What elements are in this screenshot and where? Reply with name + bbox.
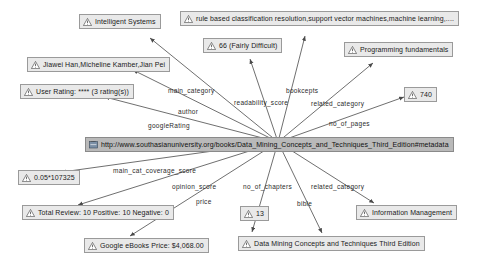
- node-label: Google eBooks Price: $4,068.00: [100, 241, 204, 250]
- edge-label-bible: bible: [297, 200, 312, 207]
- warning-icon: [244, 210, 253, 218]
- node-label: 66 (Fairly Difficult): [219, 41, 277, 50]
- edge-label-related-category-top: related_category: [311, 100, 364, 107]
- warning-icon: [22, 174, 31, 182]
- edge-label-bookcepts: bookcepts: [286, 87, 318, 94]
- edge-label-opinion-score: opinion_score: [172, 183, 216, 190]
- node-label: 0.05*107325: [34, 173, 75, 182]
- node-coverage-score[interactable]: 0.05*107325: [18, 170, 80, 185]
- node-user-rating[interactable]: User Rating: **** (3 rating(s)): [20, 84, 134, 99]
- graph-canvas: Intelligent Systems rule based classific…: [0, 0, 491, 268]
- svg-text:URL: URL: [91, 140, 97, 143]
- node-authors[interactable]: Jiawei Han,Micheline Kamber,Jian Pei: [27, 57, 170, 72]
- warning-icon: [31, 61, 40, 69]
- edge-author: [133, 70, 278, 142]
- node-subject-url[interactable]: URL http://www.southasianuniversity.org/…: [85, 137, 454, 152]
- node-label: Programming fundamentals: [360, 45, 448, 54]
- warning-icon: [26, 209, 35, 217]
- node-label: 740: [420, 90, 432, 99]
- node-label: Intelligent Systems: [95, 17, 156, 26]
- edge-label-price: price: [196, 198, 212, 205]
- node-no-of-pages[interactable]: 740: [404, 87, 437, 102]
- node-label: Total Review: 10 Positive: 10 Negative: …: [38, 208, 169, 217]
- edge-label-related-category-bottom: related_category: [311, 183, 364, 190]
- node-label: Jiawei Han,Micheline Kamber,Jian Pei: [43, 60, 165, 69]
- node-no-of-chapters[interactable]: 13: [240, 206, 269, 221]
- node-label: 13: [256, 209, 264, 218]
- warning-icon: [88, 242, 97, 250]
- node-label: rule based classification resolution,sup…: [196, 14, 454, 23]
- warning-icon: [184, 15, 193, 23]
- warning-icon: [83, 18, 92, 26]
- node-readability-score[interactable]: 66 (Fairly Difficult): [203, 38, 282, 53]
- warning-icon: [408, 91, 417, 99]
- node-label: http://www.southasianuniversity.org/book…: [101, 140, 449, 149]
- edge-label-no-of-chapters: no_of_chapters: [243, 183, 292, 190]
- edge-label-main-cat-coverage-score: main_cat_coverage_score: [113, 167, 196, 174]
- warning-icon: [24, 88, 33, 96]
- edge-label-google-rating: googleRating: [148, 122, 190, 129]
- warning-icon: [242, 240, 251, 248]
- warning-icon: [207, 42, 216, 50]
- node-label: Data Mining Concepts and Techniques Thir…: [254, 239, 420, 248]
- warning-icon: [360, 209, 369, 217]
- edge-label-main-category: main_category: [168, 87, 215, 94]
- node-google-ebooks-price[interactable]: Google eBooks Price: $4,068.00: [84, 238, 209, 253]
- node-label: User Rating: **** (3 rating(s)): [36, 87, 129, 96]
- node-intelligent-systems[interactable]: Intelligent Systems: [79, 14, 161, 29]
- warning-icon: [348, 46, 357, 54]
- link-icon: URL: [89, 140, 98, 149]
- node-label: Information Management: [372, 208, 452, 217]
- node-information-management[interactable]: Information Management: [356, 205, 457, 220]
- node-book-title[interactable]: Data Mining Concepts and Techniques Thir…: [238, 236, 425, 251]
- edge-label-no-of-pages: no_of_pages: [329, 120, 370, 127]
- node-total-review[interactable]: Total Review: 10 Positive: 10 Negative: …: [22, 205, 174, 220]
- edge-label-author: author: [178, 108, 198, 115]
- node-programming-fundamentals[interactable]: Programming fundamentals: [344, 42, 453, 57]
- edge-label-readability-score: readability_score: [234, 99, 288, 106]
- node-book-concepts[interactable]: rule based classification resolution,sup…: [180, 11, 459, 26]
